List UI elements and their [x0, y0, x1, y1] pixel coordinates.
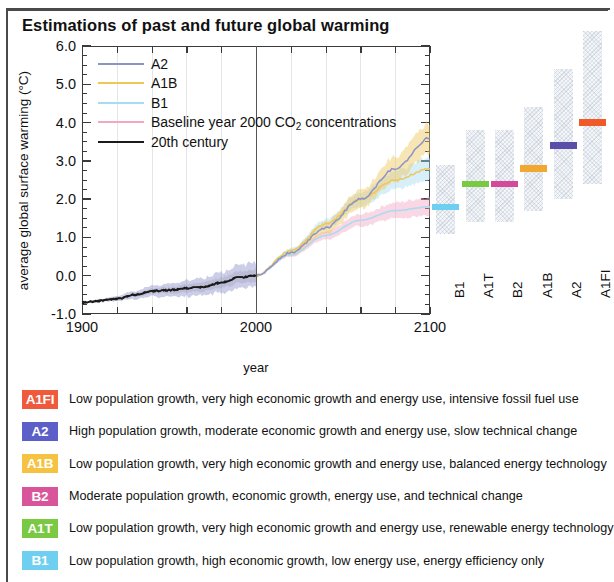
y-tick-label: 6.0 [56, 38, 76, 54]
legend-line-a2 [98, 63, 144, 65]
legend-label-b1: B1 [151, 95, 168, 111]
x-tick [430, 307, 431, 314]
scenario-row: A1FILow population growth, very high eco… [22, 383, 608, 415]
scenario-legend-list: A1FILow population growth, very high eco… [22, 383, 608, 577]
best-estimate-marker [491, 181, 518, 188]
x-tick-label: 2000 [240, 319, 272, 335]
scenario-badge: A1FI [22, 390, 58, 409]
range-bar [554, 69, 573, 199]
scenario-row: A1TLow population growth, very high econ… [22, 512, 608, 544]
uncertainty-band [82, 261, 256, 303]
x-tick-label: 2100 [414, 319, 446, 335]
y-tick-label: 2.0 [56, 191, 76, 207]
figure-title: Estimations of past and future global wa… [22, 16, 390, 35]
scenario-badge: A1T [22, 519, 58, 538]
scenario-row: A1BLow population growth, very high econ… [22, 448, 608, 480]
y-tick-label: 5.0 [56, 76, 76, 92]
legend-item-baseline: Baseline year 2000 CO2 concentrations [98, 113, 396, 133]
bar-label: B2 [510, 281, 525, 298]
scenario-badge: B2 [22, 487, 58, 506]
scenario-range-bars: B1A1TB2A1BA2A1FI [434, 46, 610, 314]
scenario-row: A2High population growth, moderate econo… [22, 415, 608, 447]
legend-line-b1 [98, 102, 144, 104]
best-estimate-marker [432, 204, 459, 211]
best-estimate-marker [579, 119, 606, 126]
y-tick-label: 0.0 [56, 268, 76, 284]
legend-item-a2: A2 [98, 54, 396, 74]
legend-item-20th-century: 20th century [98, 132, 396, 152]
legend-item-a1b: A1B [98, 74, 396, 94]
bar-label: A1T [481, 273, 496, 298]
bar-label: B1 [452, 281, 467, 298]
scenario-badge: B1 [22, 551, 58, 570]
x-tick-label: 1900 [66, 319, 98, 335]
range-bar [495, 130, 514, 222]
scenario-badge: A1B [22, 454, 58, 473]
legend-label-baseline: Baseline year 2000 CO2 concentrations [151, 114, 396, 130]
range-bar [524, 107, 543, 210]
bar-label: A1FI [598, 269, 613, 298]
x-axis-title: year [82, 360, 430, 375]
legend-label-a1b: A1B [151, 75, 177, 91]
figure-root: Estimations of past and future global wa… [0, 0, 614, 582]
scenario-description: High population growth, moderate economi… [69, 424, 577, 438]
scenario-description: Moderate population growth, economic gro… [69, 489, 523, 503]
range-bar [583, 31, 602, 184]
y-tick-label: 3.0 [56, 153, 76, 169]
legend-label-20th-century: 20th century [151, 134, 228, 150]
y-tick-label: 4.0 [56, 115, 76, 131]
y-axis-title: average global surface warming (°C) [14, 46, 34, 314]
scenario-description: Low population growth, very high economi… [69, 521, 614, 535]
legend-item-b1: B1 [98, 93, 396, 113]
chart-plot-area: -1.00.01.02.03.04.05.06.0 190020002100 A… [82, 46, 430, 314]
range-bar [466, 130, 485, 222]
scenario-row: B1Low population growth, high economic g… [22, 544, 608, 576]
best-estimate-marker [520, 165, 547, 172]
best-estimate-marker [550, 142, 577, 149]
x-tick [430, 46, 431, 53]
legend-line-a1b [98, 82, 144, 84]
legend-line-baseline [98, 121, 144, 123]
bar-label: A1B [540, 272, 555, 298]
y-axis-title-text: average global surface warming (°C) [17, 70, 32, 289]
chart-legend: A2 A1B B1 Baseline year 2000 CO2 concent… [98, 54, 396, 152]
best-estimate-marker [462, 181, 489, 188]
legend-line-20th-century [98, 141, 144, 143]
scenario-description: Low population growth, very high economi… [69, 392, 579, 406]
legend-label-a2: A2 [151, 56, 168, 72]
scenario-description: Low population growth, high economic gro… [69, 554, 544, 568]
scenario-description: Low population growth, very high economi… [69, 457, 607, 471]
y-tick-label: 1.0 [56, 229, 76, 245]
scenario-badge: A2 [22, 422, 58, 441]
range-bar [436, 165, 455, 234]
bar-label: A2 [569, 281, 584, 298]
scenario-row: B2Moderate population growth, economic g… [22, 480, 608, 512]
